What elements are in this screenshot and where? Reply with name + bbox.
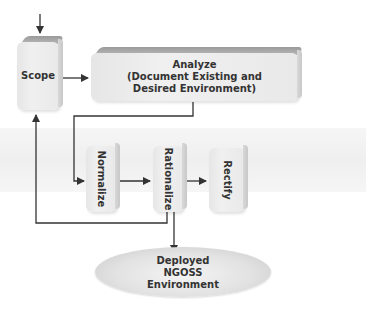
rationalize-block: Rationalize: [153, 146, 183, 212]
deployed-line-3: Environment: [95, 279, 271, 291]
analyze-label: Analyze (Document Existing and Desired E…: [91, 59, 298, 95]
deployed-line-1: Deployed: [95, 255, 271, 267]
deployed-line-2: NGOSS: [95, 267, 271, 279]
rationalize-label: Rationalize: [163, 148, 174, 211]
analyze-subtitle-1: (Document Existing and: [91, 71, 298, 83]
block-side: [243, 145, 248, 209]
block-side: [115, 143, 120, 209]
block-side: [182, 143, 187, 209]
analyze-title: Analyze: [91, 59, 298, 71]
rectify-block: Rectify: [209, 148, 244, 212]
scope-block: Scope: [17, 42, 59, 110]
analyze-block: Analyze (Document Existing and Desired E…: [91, 53, 298, 101]
deployed-ngoss-environment-ellipse: Deployed NGOSS Environment: [95, 247, 271, 297]
deployed-label: Deployed NGOSS Environment: [95, 255, 271, 291]
analyze-subtitle-2: Desired Environment): [91, 83, 298, 95]
rectify-label: Rectify: [221, 160, 232, 200]
normalize-label: Normalize: [96, 151, 107, 208]
normalize-block: Normalize: [86, 146, 116, 212]
scope-label: Scope: [17, 70, 59, 82]
